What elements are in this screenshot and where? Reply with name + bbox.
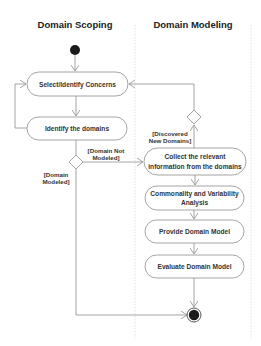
decision-domain-modeled <box>69 155 83 169</box>
guard-not-modeled-line2: Modeled] <box>92 154 119 161</box>
action-label-line1: Commonality and Variability <box>150 190 239 198</box>
action-label: Evaluate Domain Model <box>157 263 231 270</box>
decision-discovered-domains <box>187 110 201 124</box>
guard-discovered-line1: [Discovered <box>152 130 188 137</box>
action-label: Provide Domain Model <box>159 228 230 235</box>
action-collect-info[interactable]: Collect the relevant information from th… <box>144 148 246 175</box>
activity-diagram: Domain Scoping Domain Modeling Select/Id… <box>0 0 261 346</box>
flow-discovered-to-select <box>129 84 194 110</box>
action-select-concerns[interactable]: Select/Identify Concerns <box>27 72 128 96</box>
action-label-line1: Collect the relevant <box>165 153 227 160</box>
flow-identify-loop-back <box>15 84 27 128</box>
guard-modeled-line2: Modeled] <box>42 178 69 185</box>
action-label: Select/Identify Concerns <box>39 81 116 89</box>
final-node <box>187 308 201 322</box>
lane-title-scoping: Domain Scoping <box>38 19 113 30</box>
action-label-line2: information from the domains <box>148 163 242 170</box>
action-provide-model[interactable]: Provide Domain Model <box>145 220 244 243</box>
lane-title-modeling: Domain Modeling <box>153 19 232 30</box>
action-evaluate-model[interactable]: Evaluate Domain Model <box>145 255 244 278</box>
guard-not-modeled-line1: [Domain Not <box>88 147 125 154</box>
action-label-line2: Analysis <box>181 199 208 207</box>
guard-modeled-line1: [Domain <box>44 171 69 178</box>
action-identify-domains[interactable]: Identify the domains <box>27 117 127 140</box>
guard-discovered-line2: New Domains] <box>149 137 192 144</box>
action-label: Identify the domains <box>45 125 109 133</box>
action-cva[interactable]: Commonality and Variability Analysis <box>145 186 244 210</box>
initial-node <box>70 45 80 55</box>
